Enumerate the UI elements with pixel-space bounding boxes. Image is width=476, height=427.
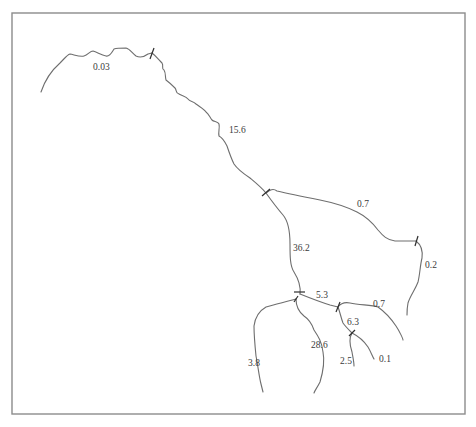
segment-label: 2.5 bbox=[340, 356, 352, 366]
segment-label: 6.3 bbox=[347, 317, 359, 327]
segment-label: 0.03 bbox=[93, 62, 110, 72]
segment-label: 0.7 bbox=[357, 199, 369, 209]
segment-label: 15.6 bbox=[229, 125, 246, 135]
segment-label: 3.8 bbox=[248, 358, 260, 368]
segment-label: 5.3 bbox=[316, 290, 328, 300]
segment-label: 0.1 bbox=[379, 354, 391, 364]
segment-label: 0.7 bbox=[373, 299, 385, 309]
segment-label: 28.6 bbox=[311, 340, 328, 350]
stream-network-diagram: 0.03 15.6 0.7 0.2 36.2 5.3 0.7 6.3 3.8 2… bbox=[0, 0, 476, 427]
segment-label: 36.2 bbox=[293, 243, 310, 253]
diagram-frame bbox=[12, 13, 465, 414]
segment-label: 0.2 bbox=[425, 260, 437, 270]
